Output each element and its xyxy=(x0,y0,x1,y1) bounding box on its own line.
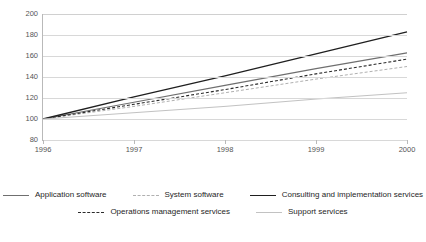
y-axis-tick-label: 160 xyxy=(25,52,38,60)
series-line xyxy=(43,59,407,119)
gridline xyxy=(43,14,407,15)
y-axis-tick-label: 200 xyxy=(25,10,38,18)
legend-item[interactable]: Operations management services xyxy=(78,207,230,216)
y-axis-tick-label: 80 xyxy=(30,136,38,144)
y-axis-tick-label: 100 xyxy=(25,115,38,123)
y-axis-tick-label: 180 xyxy=(25,31,38,39)
gridline xyxy=(43,56,407,57)
chart-plot-area: 8010012014016018020019961997199819992000 xyxy=(0,0,426,182)
x-axis-tick-mark xyxy=(43,140,44,144)
gridline xyxy=(43,35,407,36)
legend-label: System software xyxy=(165,190,224,199)
legend-swatch-icon xyxy=(133,191,159,199)
legend-item[interactable]: Application software xyxy=(3,190,107,199)
y-axis-tick-label: 120 xyxy=(25,94,38,102)
gridline xyxy=(43,119,407,120)
series-line xyxy=(43,53,407,119)
legend-row: Application softwareSystem softwareConsu… xyxy=(0,186,426,203)
legend-row: Operations management servicesSupport se… xyxy=(0,203,426,220)
x-axis-tick-label: 1999 xyxy=(308,146,325,154)
x-axis-tick-mark xyxy=(225,140,226,144)
legend-item[interactable]: Support services xyxy=(256,207,348,216)
chart-screenshot: 8010012014016018020019961997199819992000… xyxy=(0,0,426,242)
legend-label: Application software xyxy=(35,190,107,199)
legend-swatch-icon xyxy=(78,208,104,216)
x-axis-tick-label: 2000 xyxy=(399,146,416,154)
x-axis-tick-label: 1998 xyxy=(217,146,234,154)
y-axis-tick-label: 140 xyxy=(25,73,38,81)
legend-swatch-icon xyxy=(256,208,282,216)
gridline xyxy=(43,98,407,99)
x-axis-tick-mark xyxy=(407,140,408,144)
legend-label: Operations management services xyxy=(110,207,230,216)
x-axis-tick-label: 1996 xyxy=(35,146,52,154)
legend-item[interactable]: System software xyxy=(133,190,224,199)
x-axis-tick-label: 1997 xyxy=(126,146,143,154)
x-axis-tick-mark xyxy=(316,140,317,144)
legend-swatch-icon xyxy=(3,191,29,199)
legend-item[interactable]: Consulting and implementation services xyxy=(250,190,423,199)
series-line xyxy=(43,67,407,120)
x-axis-tick-mark xyxy=(134,140,135,144)
gridline xyxy=(43,77,407,78)
legend-label: Support services xyxy=(288,207,348,216)
plot-frame: 8010012014016018020019961997199819992000 xyxy=(42,14,407,141)
legend-swatch-icon xyxy=(250,191,276,199)
chart-legend: Application softwareSystem softwareConsu… xyxy=(0,186,426,232)
legend-label: Consulting and implementation services xyxy=(282,190,423,199)
